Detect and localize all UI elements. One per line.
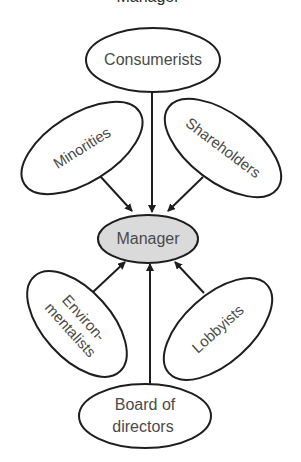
node-lobbyists: Lobbyists (146, 260, 290, 399)
node-manager-label: Manager (116, 230, 180, 247)
node-manager: Manager (98, 215, 198, 263)
stakeholder-diagram: Manager Consumerists Minorities Sharehol… (0, 0, 301, 462)
edge-environmentalists-manager (93, 262, 125, 292)
node-environmentalists: Environ- mentalists (9, 254, 145, 395)
edge-lobbyists-manager (175, 262, 204, 293)
node-consumerists: Consumerists (86, 28, 220, 92)
node-board-of-directors: Board of directors (79, 384, 211, 448)
node-board-label-line2: directors (112, 418, 173, 435)
node-board-label-line1: Board of (115, 396, 176, 413)
edge-shareholders-manager (168, 177, 203, 211)
node-minorities: Minorities (6, 83, 157, 213)
diagram-title-partial: Manager (116, 0, 180, 5)
node-board-shape (79, 384, 211, 448)
node-shareholders: Shareholders (148, 80, 298, 216)
edge-minorities-manager (100, 176, 132, 211)
node-consumerists-label: Consumerists (104, 51, 202, 68)
